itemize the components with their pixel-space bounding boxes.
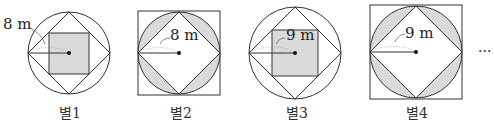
figure-caption: 별1 xyxy=(59,105,81,121)
radius-label: 8 m xyxy=(3,15,32,33)
figure-caption: 별4 xyxy=(406,105,428,121)
figure-2: 8 m 별2 xyxy=(138,11,220,121)
figure-caption: 별2 xyxy=(170,105,192,121)
center-dot xyxy=(67,51,71,55)
figure-3: 9 m 별3 xyxy=(249,7,341,121)
figure-1: 8 m 별1 xyxy=(3,12,110,121)
radius-label: 9 m xyxy=(405,24,434,42)
figure-caption: 별3 xyxy=(286,105,308,121)
pattern-diagram: 8 m 별1 8 m 별2 9 m 별3 xyxy=(0,0,494,125)
radius-label: 9 m xyxy=(286,26,315,44)
center-dot xyxy=(293,51,297,55)
center-dot xyxy=(177,51,181,55)
radius-label: 8 m xyxy=(170,26,199,44)
center-dot xyxy=(414,50,418,54)
label-leader xyxy=(30,28,45,44)
figure-4: 9 m 별4 xyxy=(370,5,462,121)
continuation-ellipsis: ··· xyxy=(478,43,491,59)
